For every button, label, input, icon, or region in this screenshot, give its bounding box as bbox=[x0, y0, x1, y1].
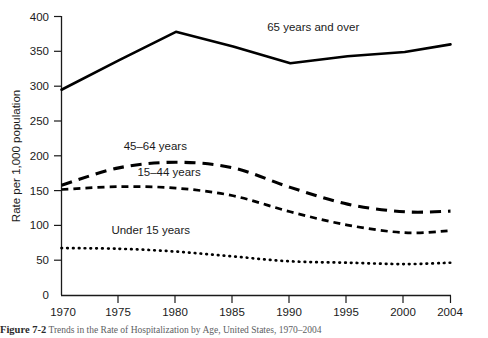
figure-container: 400 350 300 250 200 150 100 50 0 1970 19… bbox=[0, 0, 488, 338]
series-annotation-15-44: 15–44 years bbox=[137, 166, 201, 178]
y-tick-label-150: 150 bbox=[30, 185, 49, 197]
y-tick-label-50: 50 bbox=[36, 254, 49, 266]
x-tick-label-1970: 1970 bbox=[50, 306, 76, 318]
x-tick-label-1985: 1985 bbox=[219, 306, 245, 318]
y-tick-label-0: 0 bbox=[43, 289, 49, 301]
y-tick-label-400: 400 bbox=[30, 11, 49, 23]
series-annotation-65-and-over: 65 years and over bbox=[267, 21, 359, 33]
x-tick-label-1980: 1980 bbox=[162, 306, 188, 318]
x-tick-label-2004: 2004 bbox=[437, 306, 463, 318]
y-tick-label-350: 350 bbox=[30, 45, 49, 57]
series-annotation-under-15: Under 15 years bbox=[111, 224, 190, 236]
y-axis-title: Rate per 1,000 population bbox=[10, 90, 22, 222]
y-tick-label-100: 100 bbox=[30, 219, 49, 231]
y-tick-label-300: 300 bbox=[30, 80, 49, 92]
figure-caption-number: Figure 7-2 bbox=[0, 324, 46, 335]
figure-caption-text: Trends in the Rate of Hospitalization by… bbox=[48, 325, 321, 335]
x-tick-label-1990: 1990 bbox=[276, 306, 302, 318]
x-tick-label-1975: 1975 bbox=[105, 306, 131, 318]
x-tick-label-1995: 1995 bbox=[333, 306, 359, 318]
line-chart: 400 350 300 250 200 150 100 50 0 1970 19… bbox=[0, 0, 488, 338]
y-tick-label-250: 250 bbox=[30, 115, 49, 127]
series-annotation-45-64: 45–64 years bbox=[124, 140, 188, 152]
y-tick-label-200: 200 bbox=[30, 150, 49, 162]
figure-caption: Figure 7-2 Trends in the Rate of Hospita… bbox=[0, 323, 488, 338]
x-tick-label-2000: 2000 bbox=[390, 306, 416, 318]
